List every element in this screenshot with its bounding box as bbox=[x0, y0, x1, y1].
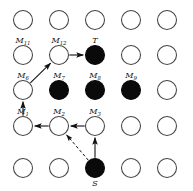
node-r3c5[interactable] bbox=[158, 81, 177, 100]
node-M12[interactable] bbox=[50, 46, 69, 65]
node-label-M7: M7 bbox=[52, 71, 65, 81]
node-M1[interactable] bbox=[14, 117, 33, 136]
node-r2c5[interactable] bbox=[158, 46, 177, 65]
node-r1c1[interactable] bbox=[14, 11, 33, 30]
node-T[interactable] bbox=[86, 46, 105, 65]
node-r1c4[interactable] bbox=[122, 11, 141, 30]
node-label-M6: M6 bbox=[16, 71, 29, 81]
node-r1c2[interactable] bbox=[50, 11, 69, 30]
node-label-S: S bbox=[92, 179, 98, 188]
node-r2c4[interactable] bbox=[122, 46, 141, 65]
node-label-M3: M3 bbox=[88, 107, 101, 117]
e-s-m2 bbox=[67, 135, 89, 160]
node-r1c5[interactable] bbox=[158, 11, 177, 30]
node-M2[interactable] bbox=[50, 117, 69, 136]
node-M9[interactable] bbox=[122, 81, 141, 100]
node-M8[interactable] bbox=[86, 81, 105, 100]
e-m6-m12 bbox=[30, 63, 50, 83]
node-r5c1[interactable] bbox=[14, 159, 33, 178]
node-r5c4[interactable] bbox=[122, 159, 141, 178]
labels-layer: M11M12TM6M7M8M9M1M2M3S bbox=[14, 36, 137, 188]
node-label-M1: M1 bbox=[16, 107, 29, 117]
node-label-M11: M11 bbox=[14, 36, 30, 46]
graph-canvas: M11M12TM6M7M8M9M1M2M3S bbox=[0, 0, 193, 191]
node-label-T: T bbox=[92, 36, 98, 45]
node-label-M12: M12 bbox=[50, 36, 67, 46]
node-S[interactable] bbox=[86, 159, 105, 178]
node-M3[interactable] bbox=[86, 117, 105, 136]
node-r5c5[interactable] bbox=[158, 159, 177, 178]
node-label-M8: M8 bbox=[88, 71, 101, 81]
node-M6[interactable] bbox=[14, 81, 33, 100]
node-r4c5[interactable] bbox=[158, 117, 177, 136]
node-label-M9: M9 bbox=[124, 71, 137, 81]
node-r4c4[interactable] bbox=[122, 117, 141, 136]
node-M11[interactable] bbox=[14, 46, 33, 65]
node-M7[interactable] bbox=[50, 81, 69, 100]
node-label-M2: M2 bbox=[52, 107, 65, 117]
node-r5c2[interactable] bbox=[50, 159, 69, 178]
node-r1c3[interactable] bbox=[86, 11, 105, 30]
grid-graph-diagram: M11M12TM6M7M8M9M1M2M3S bbox=[0, 0, 193, 191]
